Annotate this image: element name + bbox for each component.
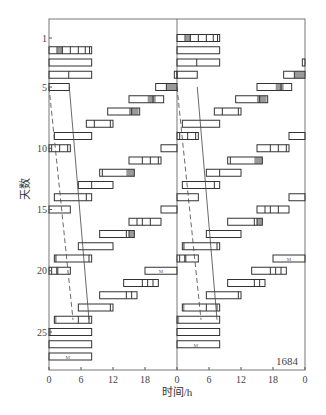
x-tick-label: 6 [79, 374, 84, 385]
x-axis-title: 时间/h [162, 386, 193, 398]
activity-bar [161, 206, 177, 213]
activity-bar [177, 71, 197, 78]
shaded-segment [129, 231, 134, 238]
activity-bar [49, 329, 92, 336]
dashed-trend-line [177, 87, 201, 320]
activity-bar [257, 206, 289, 213]
activity-bar [86, 120, 113, 127]
activity-bar: M [177, 341, 220, 348]
shaded-segment [129, 108, 139, 115]
x-tick-label: 0 [303, 374, 308, 385]
activity-bar [49, 59, 92, 66]
activity-bar [156, 84, 177, 91]
activity-bar [54, 255, 91, 262]
y-tick-label: 20 [37, 265, 47, 276]
activity-bar [206, 292, 241, 299]
activity-bar [100, 169, 135, 176]
activity-bar [228, 218, 263, 225]
x-tick-label: 12 [108, 374, 118, 385]
activity-bar [177, 133, 198, 140]
x-tick-label: 0 [47, 374, 52, 385]
activity-bar [108, 108, 140, 115]
activity-bar [284, 71, 305, 78]
bar-label: M [193, 343, 198, 348]
trend-lines [49, 87, 217, 320]
shaded-segment [257, 218, 262, 225]
activity-bar [129, 218, 161, 225]
activity-bar [177, 194, 198, 201]
activity-bar [49, 145, 70, 152]
activity-bar [252, 267, 287, 274]
activity-bar [100, 231, 135, 238]
activity-bar [182, 304, 219, 311]
x-tick-label: 0 [175, 374, 180, 385]
x-tick-label: 18 [140, 374, 150, 385]
activity-bar [214, 108, 241, 115]
activity-bar [177, 329, 220, 336]
activity-bar [289, 133, 305, 140]
x-tick-label: 6 [207, 374, 212, 385]
activity-bar: M [273, 255, 305, 262]
bar-label: M [159, 269, 164, 274]
shaded-segment [148, 96, 156, 103]
activity-bar [206, 231, 241, 238]
shaded-segment [166, 84, 177, 91]
x-tick-label: 18 [268, 374, 278, 385]
activity-bar [124, 280, 159, 287]
activity-bar [49, 47, 92, 54]
activity-bar [182, 182, 219, 189]
activity-bar [236, 96, 268, 103]
activity-bar [78, 182, 113, 189]
activity-bar [257, 84, 292, 91]
shaded-segment [254, 157, 262, 164]
activity-bar [49, 84, 69, 91]
activity-bar: M [145, 267, 177, 274]
dashed-trend-line [49, 87, 73, 320]
activity-bar [129, 157, 161, 164]
activity-bar [177, 35, 220, 42]
x-tick-label: 12 [236, 374, 246, 385]
activity-bar [129, 96, 164, 103]
bar-label: M [287, 257, 292, 262]
y-tick-label: 15 [37, 204, 47, 215]
activity-bar [228, 280, 265, 287]
actogram-chart: MMMM 06121806121801510152025 1684 时间/h 天… [0, 0, 326, 415]
activity-bar [49, 341, 92, 348]
activity-bar [49, 267, 70, 274]
y-tick-label: 25 [37, 327, 47, 338]
activity-bar [78, 243, 113, 250]
solid-trend-line [197, 87, 217, 320]
y-axis-title: 天数 [19, 178, 31, 200]
activity-bar [206, 169, 241, 176]
activity-bar [182, 120, 219, 127]
activity-bar [100, 292, 137, 299]
shaded-segment [294, 71, 305, 78]
activity-bar [177, 59, 220, 66]
activity-bar [177, 255, 198, 262]
activity-bar [289, 194, 305, 201]
y-tick-label: 5 [42, 82, 47, 93]
activity-bar [49, 71, 92, 78]
y-tick-label: 10 [37, 143, 47, 154]
y-tick-label: 1 [42, 33, 47, 44]
activity-bar [257, 145, 289, 152]
activity-bar [182, 243, 219, 250]
shaded-segment [126, 169, 134, 176]
activity-bar [78, 304, 113, 311]
activity-bar [177, 316, 220, 323]
shaded-segment [257, 96, 267, 103]
specimen-annotation: 1684 [276, 355, 299, 367]
activity-bar [49, 206, 70, 213]
activity-bar [302, 59, 305, 66]
activity-bar [161, 145, 177, 152]
shaded-segment [276, 84, 284, 91]
activity-bar [228, 157, 263, 164]
activity-bar [177, 47, 220, 54]
activity-bar: M [49, 353, 92, 360]
bar-label: M [65, 355, 70, 360]
